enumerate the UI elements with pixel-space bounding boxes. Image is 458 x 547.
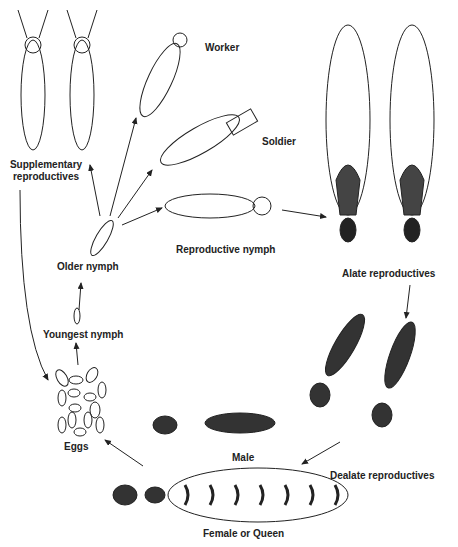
older-nymph-label: Older nymph <box>57 261 119 273</box>
reproductive-nymph-label: Reproductive nymph <box>176 244 275 256</box>
worker-label: Worker <box>205 42 239 54</box>
arrow-reproductive-nymph-to-alate <box>282 210 326 217</box>
alate-reproductives-label: Alate reproductives <box>342 268 435 280</box>
arrow-older-to-worker <box>110 118 136 216</box>
dealate-reproductives-label: Dealate reproductives <box>330 470 435 482</box>
arrow-dealate-to-pair <box>302 442 340 464</box>
arrow-eggs-to-youngest <box>76 343 78 365</box>
soldier-icon <box>155 106 258 174</box>
queen-icon <box>113 468 348 522</box>
queen-label: Female or Queen <box>203 528 284 540</box>
eggs-label: Eggs <box>64 441 88 453</box>
eggs-icon <box>53 366 106 436</box>
male-label: Male <box>232 452 254 464</box>
supplementary-reproductives-label: Supplementary reproductives <box>6 159 86 183</box>
arrow-queen-to-eggs <box>105 440 143 466</box>
youngest-nymph-label: Youngest nymph <box>43 329 123 341</box>
supplementary-reproductive-icon <box>18 10 97 150</box>
dealate-reproductive-icon <box>310 310 421 427</box>
soldier-label: Soldier <box>262 136 296 148</box>
older-nymph-icon <box>87 218 117 259</box>
arrow-alate-to-dealate <box>406 285 410 318</box>
arrow-older-to-supplementary <box>90 165 100 216</box>
reproductive-nymph-icon <box>165 194 271 218</box>
arrow-older-to-soldier <box>118 170 152 218</box>
worker-icon <box>132 33 188 121</box>
youngest-nymph-icon <box>74 308 80 324</box>
arrow-older-to-reproductive-nymph <box>122 208 162 225</box>
arrow-supplementary-to-eggs <box>20 190 48 380</box>
arrow-youngest-to-older <box>79 283 81 310</box>
alate-reproductive-icon <box>326 25 434 242</box>
male-icon <box>153 413 275 434</box>
